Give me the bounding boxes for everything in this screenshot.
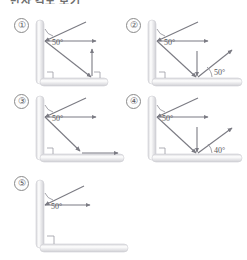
angle-label-4-wall: 50°	[162, 114, 173, 123]
diagram-2	[126, 16, 244, 92]
wall-bar-5	[36, 180, 44, 248]
floor-bar-4	[152, 154, 242, 162]
wall-bar-1	[36, 20, 44, 84]
angle-label-1-wall: 50°	[52, 38, 63, 47]
right-angle-marker-floor-1	[94, 72, 100, 78]
right-angle-marker-corner-1	[47, 72, 53, 78]
answer-option-2[interactable]: ②	[126, 16, 244, 92]
angle-arc-3	[45, 105, 53, 112]
angle-arc-5	[45, 193, 53, 200]
right-angle-marker-corner-4	[159, 148, 165, 154]
wall-bar-3	[36, 96, 44, 160]
answer-option-1[interactable]: ①	[14, 16, 126, 92]
angle-label-2-wall: 50°	[164, 38, 175, 47]
page-heading: 반사 각도 보기	[10, 0, 160, 4]
angle-arc-2-wall	[157, 29, 165, 36]
answer-option-3[interactable]: ③	[14, 92, 126, 168]
diagram-4	[126, 92, 244, 172]
answer-option-5[interactable]: ⑤	[14, 174, 132, 258]
angle-label-2-floor: 50°	[214, 68, 225, 77]
right-angle-marker-corner-3	[47, 148, 53, 154]
right-angle-marker-corner-2	[159, 72, 165, 78]
right-angle-marker-corner-5	[47, 236, 54, 244]
diagram-3	[14, 92, 126, 168]
angle-label-4-floor: 40°	[214, 146, 225, 155]
floor-bar-2	[152, 78, 242, 86]
angle-arc-4-wall	[157, 105, 165, 112]
answer-option-4[interactable]: ④	[126, 92, 244, 172]
angle-label-3-wall: 50°	[52, 114, 63, 123]
diagram-5	[14, 174, 132, 258]
figure-page: 반사 각도 보기 ①	[0, 0, 247, 260]
floor-bar-5	[40, 244, 128, 252]
floor-bar-3	[40, 154, 124, 162]
floor-bar-1	[40, 78, 108, 86]
angle-label-5-wall: 50°	[51, 202, 62, 211]
diagram-1	[14, 16, 126, 92]
angle-arc-1	[45, 29, 53, 36]
wall-bar-4	[148, 96, 156, 160]
wall-bar-2	[148, 20, 156, 84]
